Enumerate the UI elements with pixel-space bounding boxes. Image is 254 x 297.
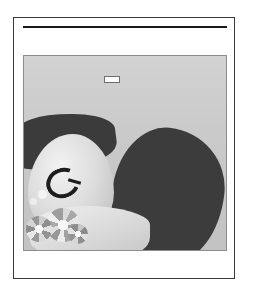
chart-panel [23, 55, 227, 251]
panel-background [24, 56, 226, 250]
bar-tab-marker [104, 76, 120, 83]
masthead-title [23, 28, 227, 30]
masthead [23, 26, 227, 30]
subtext-block [26, 56, 226, 59]
headline-block [26, 56, 226, 59]
